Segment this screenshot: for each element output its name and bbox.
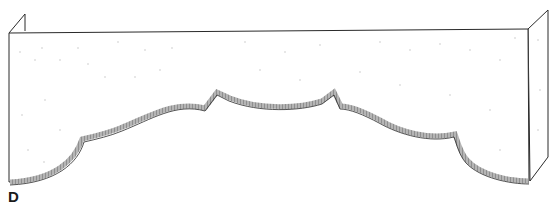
figure-label: D [8,189,19,204]
left-return-flap [9,14,25,33]
right-return-flap [528,10,548,181]
valance-drawing [0,0,551,210]
valance-illustration: D [0,0,551,210]
